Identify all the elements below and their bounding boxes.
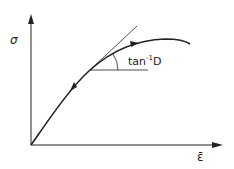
y-axis — [28, 14, 34, 145]
angle-label-sup: -1 — [146, 54, 153, 62]
angle-arc — [113, 54, 118, 70]
x-axis — [31, 142, 223, 148]
angle-label-tail: D — [153, 55, 161, 68]
x-axis-arrow-icon — [212, 142, 223, 148]
y-axis-label: σ — [10, 34, 18, 46]
angle-label: tan-1D — [128, 55, 162, 67]
y-axis-arrow-icon — [28, 14, 34, 24]
loading-arrow-icon — [130, 41, 139, 47]
stress-strain-curve — [31, 39, 190, 145]
angle-label-base: tan — [128, 55, 146, 68]
diagram-canvas — [0, 0, 234, 169]
x-axis-label: ε̄ — [197, 151, 204, 163]
